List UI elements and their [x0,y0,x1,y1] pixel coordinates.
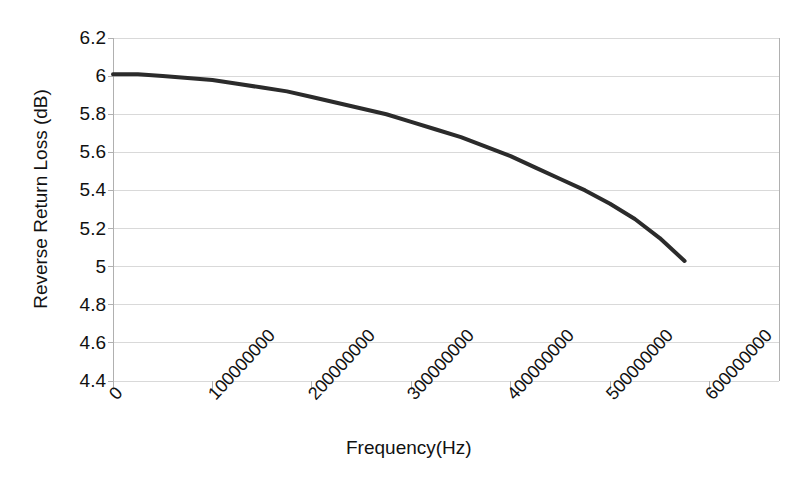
x-tick-label: 200000000 [304,325,380,404]
chart-container: 4.44.64.855.25.45.65.866.2 0100000000200… [0,0,795,503]
x-tick-label: 600000000 [701,325,777,404]
y-axis-title: Reverse Return Loss (dB) [30,54,52,344]
x-tick-label: 100000000 [204,325,280,404]
x-tick-label: 400000000 [503,325,579,404]
x-tick-label: 300000000 [403,325,479,404]
x-axis-tick-labels: 0100000000200000000300000000400000000500… [0,0,795,503]
x-axis-title: Frequency(Hz) [346,437,472,459]
x-tick-label: 0 [105,383,127,404]
x-tick-label: 500000000 [602,325,678,404]
